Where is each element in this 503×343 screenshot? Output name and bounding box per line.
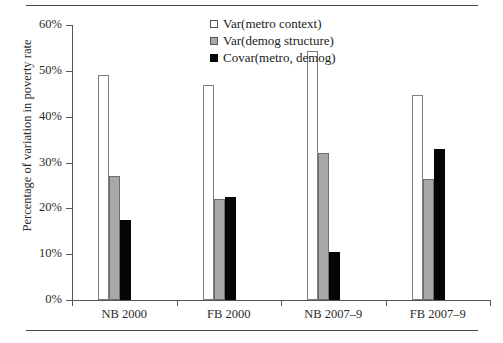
- x-axis-tick: [281, 300, 282, 306]
- bar: [423, 179, 434, 300]
- bar: [412, 95, 423, 300]
- legend-swatch-icon: [210, 54, 218, 62]
- x-axis-tick: [72, 300, 73, 306]
- bar: [203, 85, 214, 300]
- legend-item: Var(demog structure): [210, 33, 336, 48]
- legend-item-label: Var(demog structure): [223, 33, 334, 49]
- bar: [214, 199, 225, 300]
- bar: [109, 176, 120, 300]
- legend-item-label: Covar(metro, demog): [223, 50, 336, 66]
- figure-bottom-rule: [26, 330, 478, 331]
- figure-container: 0%10%20%30%40%50%60% Percentage of varia…: [0, 0, 503, 343]
- bar: [434, 149, 445, 300]
- bar: [98, 75, 109, 300]
- legend-swatch-icon: [210, 37, 218, 45]
- bar: [307, 51, 318, 300]
- x-axis-tick: [490, 300, 491, 306]
- x-axis-tick: [177, 300, 178, 306]
- bar: [318, 153, 329, 300]
- x-axis-category-label: FB 2000: [177, 307, 282, 322]
- legend-item-label: Var(metro context): [223, 16, 322, 32]
- x-axis-category-label: NB 2007–9: [281, 307, 386, 322]
- x-axis-tick: [386, 300, 387, 306]
- bar: [225, 197, 236, 300]
- chart-legend: Var(metro context)Var(demog structure)Co…: [210, 16, 336, 67]
- bar: [120, 220, 131, 300]
- figure-top-rule: [26, 5, 478, 6]
- bar: [329, 252, 340, 300]
- x-axis-category-label: FB 2007–9: [386, 307, 491, 322]
- legend-item: Var(metro context): [210, 16, 336, 31]
- legend-swatch-icon: [210, 20, 218, 28]
- x-axis-category-label: NB 2000: [72, 307, 177, 322]
- y-axis-title: Percentage of variation in poverty rate: [20, 11, 35, 261]
- legend-item: Covar(metro, demog): [210, 50, 336, 65]
- y-axis-tick-label: 0%: [4, 293, 62, 305]
